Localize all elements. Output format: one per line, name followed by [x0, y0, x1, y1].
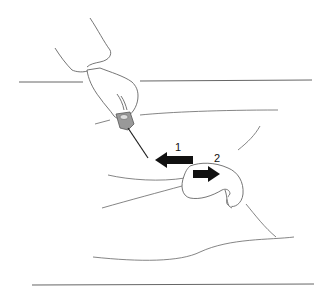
- step-2-label: 2: [214, 153, 220, 164]
- arm-outline: [55, 18, 111, 72]
- procedure-illustration: 1 2: [0, 0, 332, 298]
- hand-outline: [87, 68, 138, 119]
- bottom-base-line: [32, 284, 314, 285]
- instrument-grip: [116, 112, 134, 130]
- illustration-drawing: [0, 0, 332, 298]
- step-1-label: 1: [175, 142, 181, 153]
- arrow-1-icon: [155, 152, 193, 168]
- upper-body-line: [19, 80, 312, 82]
- needle: [128, 128, 148, 158]
